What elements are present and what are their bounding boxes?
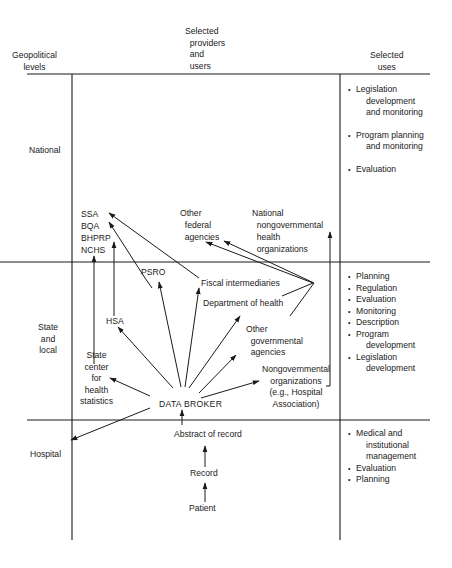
node-abstract-of-record: Abstract of record	[174, 429, 242, 441]
uses-state-item: Legislationdevelopment	[348, 352, 415, 375]
header-selected-uses: Selected uses	[370, 50, 403, 73]
node-patient: Patient	[189, 503, 216, 515]
uses-state-item: Regulation	[348, 283, 415, 295]
level-state-local: State and local	[38, 322, 58, 357]
arrow-databroker-ngo	[201, 381, 259, 398]
node-bhprp: BHPRP	[81, 232, 111, 244]
arrow-databroker-hsa	[118, 327, 173, 388]
node-hsa: HSA	[106, 316, 124, 328]
arrow-databroker-fiscal	[185, 288, 199, 387]
uses-hospital-list: Medical andinstitutional management Eval…	[348, 428, 416, 486]
node-data-broker: DATA BROKER	[159, 399, 222, 411]
uses-state-item: Programdevelopment	[348, 329, 415, 352]
node-state-center-health-statistics: State center for health statistics	[80, 350, 113, 408]
node-department-of-health: Department of health	[203, 298, 283, 310]
uses-national-item: Evaluation	[348, 164, 424, 176]
uses-national-list: Legislationdevelopment and monitoring Pr…	[348, 84, 424, 186]
node-nchs: NCHS	[81, 244, 105, 256]
arrow-databroker-hospital	[71, 408, 150, 440]
node-psro: PSRO	[141, 267, 165, 279]
node-national-nongovernmental-health-orgs: National nongovernmental health organiza…	[252, 207, 323, 255]
uses-hospital-item: Evaluation	[348, 463, 416, 475]
uses-state-list: Planning Regulation Evaluation Monitorin…	[348, 271, 415, 375]
arrow-databroker-statecenter	[110, 378, 150, 396]
arrow-databroker-psro	[159, 282, 181, 387]
uses-hospital-item: Medical andinstitutional management	[348, 428, 416, 463]
node-other-governmental-agencies: Other governmental agencies	[246, 324, 303, 359]
node-other-federal-agencies: Other federal agencies	[180, 207, 219, 243]
uses-national-item: Program planningand monitoring	[348, 130, 424, 153]
uses-state-item: Description	[348, 317, 415, 329]
level-hospital: Hospital	[30, 449, 61, 461]
node-fiscal-intermediaries: Fiscal intermediaries	[201, 278, 280, 290]
node-bqa: BQA	[81, 220, 99, 232]
level-national: National	[29, 145, 61, 157]
header-providers-users: Selected providers and users	[185, 26, 225, 72]
uses-hospital-item: Planning	[348, 474, 416, 486]
uses-state-item: Planning	[348, 271, 415, 283]
arrow-databroker-othergov	[199, 355, 236, 393]
uses-national-item: Legislationdevelopment and monitoring	[348, 84, 424, 119]
node-nongovernmental-organizations: Nongovernmental organizations (e.g., Hos…	[262, 364, 330, 410]
node-ssa: SSA	[81, 208, 98, 220]
header-geopolitical-levels: Geopolitical levels	[12, 50, 57, 73]
uses-state-item: Evaluation	[348, 294, 415, 306]
uses-state-item: Monitoring	[348, 306, 415, 318]
node-record: Record	[190, 468, 218, 480]
